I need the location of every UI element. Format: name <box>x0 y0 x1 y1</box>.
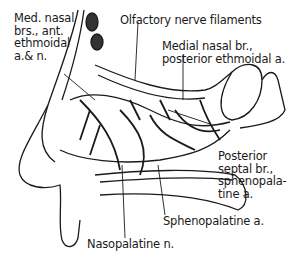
label-nasopalatine-n: Nasopalatine n. <box>87 238 174 251</box>
label-sphenopalatine-a: Sphenopalatine a. <box>163 215 264 228</box>
label-med-nasal-brs: Med. nasal brs., ant. ethmoidal a.& n. <box>14 12 74 62</box>
label-medial-nasal-br: Medial nasal br., posterior ethmoidal a. <box>162 40 285 65</box>
label-olfactory-nerve-filaments: Olfactory nerve filaments <box>120 14 262 27</box>
label-posterior-septal-br: Posterior septal br., sphenopala- tine a… <box>218 150 287 200</box>
